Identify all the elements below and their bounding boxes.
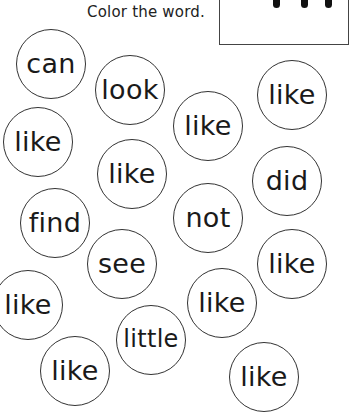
word-bubble-did[interactable]: did (252, 146, 322, 216)
word-bubble-like[interactable]: like (0, 270, 63, 340)
word-bubble-not[interactable]: not (173, 183, 243, 253)
bubble-word: not (185, 204, 230, 231)
bubble-word: did (266, 167, 309, 194)
word-bubble-like[interactable]: like (229, 342, 299, 412)
word-bubble-little[interactable]: little (116, 305, 186, 375)
word-bubble-like[interactable]: like (97, 139, 167, 209)
word-bubble-find[interactable]: find (20, 188, 90, 258)
bubble-word: like (198, 289, 246, 316)
word-bubble-like[interactable]: like (187, 268, 257, 338)
letter-stroke (301, 0, 308, 8)
bubble-word: like (51, 357, 99, 384)
bubble-word: like (240, 363, 288, 390)
letter-stroke (273, 0, 280, 8)
word-bubble-like[interactable]: like (3, 107, 73, 177)
word-bubble-look[interactable]: look (95, 55, 165, 125)
word-bubble-like[interactable]: like (257, 60, 327, 130)
bubble-word: find (29, 209, 81, 236)
word-bubble-like[interactable]: like (173, 91, 243, 161)
word-bubble-like[interactable]: like (40, 336, 110, 406)
bubble-word: like (184, 112, 232, 139)
bubble-word: like (4, 291, 52, 318)
instruction-text: Color the word. (87, 3, 205, 21)
word-bubble-can[interactable]: can (16, 29, 86, 99)
bubble-word: like (268, 81, 316, 108)
word-bubble-see[interactable]: see (87, 229, 157, 299)
bubble-word: can (26, 50, 75, 77)
letter-stroke (325, 0, 332, 8)
bubble-word: like (14, 128, 62, 155)
bubble-word: like (268, 250, 316, 277)
bubble-word: little (123, 327, 178, 351)
bubble-word: see (98, 250, 146, 277)
bubble-word: like (108, 160, 156, 187)
bubble-word: look (101, 76, 158, 103)
target-word-box (219, 0, 349, 45)
word-bubble-like[interactable]: like (257, 229, 327, 299)
